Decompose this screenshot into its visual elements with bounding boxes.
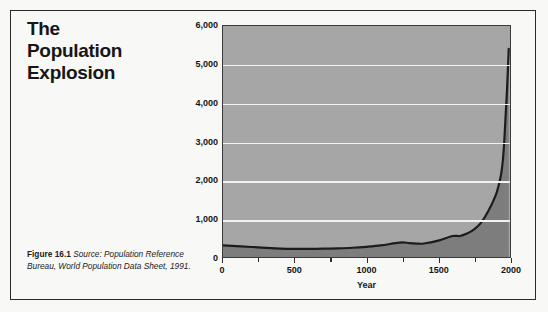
gridline-1000: [223, 220, 510, 222]
x-tick-label-0: 0: [219, 265, 224, 275]
x-tick-mark-250: [258, 258, 259, 262]
y-axis: World Population (in Millions) 01,0002,0…: [176, 25, 218, 258]
x-tick-label-500: 500: [287, 265, 302, 275]
x-axis-title: Year: [222, 280, 511, 290]
title-line-1: The: [27, 18, 197, 40]
x-tick-mark-2000: [511, 258, 512, 263]
gridline-3000: [223, 143, 510, 145]
chart-plot-area: [222, 25, 511, 258]
figure-root: The Population Explosion Figure 16.1 Sou…: [0, 0, 548, 312]
x-tick-mark-1750: [475, 258, 476, 262]
x-tick-mark-750: [330, 258, 331, 262]
population-area-series: [223, 26, 510, 257]
gridline-2000: [223, 181, 510, 183]
x-tick-mark-1500: [439, 258, 440, 263]
y-tick-label-0: 0: [213, 253, 218, 263]
area-fill-path: [223, 49, 509, 257]
y-tick-label-4000: 4,000: [195, 98, 218, 108]
plot-frame: [222, 25, 511, 258]
figure-number: Figure 16.1: [27, 249, 71, 259]
x-tick-label-1500: 1500: [429, 265, 449, 275]
curve-line-path: [223, 49, 509, 249]
x-tick-mark-0: [222, 258, 223, 263]
figure-caption: Figure 16.1 Source: Population Reference…: [27, 249, 192, 273]
gridline-4000: [223, 104, 510, 106]
title-line-3: Explosion: [27, 62, 197, 84]
title-line-2: Population: [27, 40, 197, 62]
x-tick-mark-1000: [367, 258, 368, 263]
y-tick-label-6000: 6,000: [195, 20, 218, 30]
x-axis: Year 0500100015002000: [222, 258, 511, 298]
y-tick-label-2000: 2,000: [195, 175, 218, 185]
y-tick-label-3000: 3,000: [195, 137, 218, 147]
x-tick-mark-1250: [403, 258, 404, 262]
x-tick-label-1000: 1000: [356, 265, 376, 275]
gridline-5000: [223, 65, 510, 67]
x-tick-mark-500: [294, 258, 295, 263]
page-title: The Population Explosion: [27, 18, 197, 85]
x-tick-label-2000: 2000: [501, 265, 521, 275]
y-tick-label-5000: 5,000: [195, 59, 218, 69]
y-tick-label-1000: 1,000: [195, 214, 218, 224]
